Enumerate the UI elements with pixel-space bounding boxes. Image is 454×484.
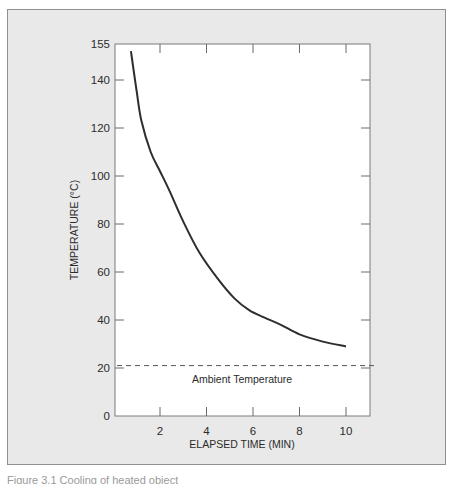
x-tick-label: 4 <box>203 425 210 437</box>
chart: 020406080100120140155 246810 Ambient Tem… <box>0 0 454 484</box>
y-tick-label: 20 <box>97 362 110 374</box>
y-tick-label: 80 <box>97 218 110 230</box>
y-tick-label: 140 <box>91 74 110 86</box>
figure-caption: Figure 3.1 Cooling of heated object <box>7 474 178 484</box>
y-tick-label: 60 <box>97 266 110 278</box>
x-tick-label: 10 <box>340 425 353 437</box>
y-tick-label: 0 <box>104 410 110 422</box>
y-tick-label: 120 <box>91 122 110 134</box>
x-tick-label: 8 <box>296 425 302 437</box>
x-tick-label: 2 <box>157 425 163 437</box>
figure: 020406080100120140155 246810 Ambient Tem… <box>0 0 454 484</box>
plot-area <box>115 44 370 416</box>
y-tick-label: 155 <box>91 38 110 50</box>
x-axis-title: ELAPSED TIME (MIN) <box>189 438 294 450</box>
y-tick-label: 40 <box>97 314 110 326</box>
y-tick-label: 100 <box>91 170 110 182</box>
y-axis-title: TEMPERATURE (°C) <box>68 180 80 280</box>
ambient-temperature-label: Ambient Temperature <box>192 373 292 385</box>
x-tick-label: 6 <box>250 425 256 437</box>
